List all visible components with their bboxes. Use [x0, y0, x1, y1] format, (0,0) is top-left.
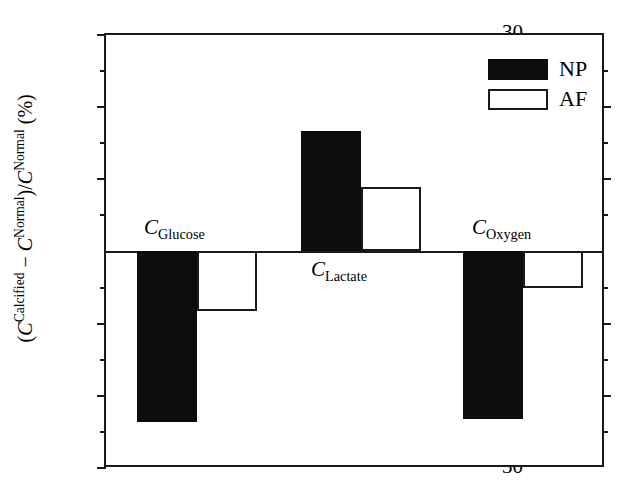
group-label-oxygen: COxygen — [472, 215, 531, 243]
legend-label-np: NP — [559, 58, 587, 80]
bar-chart-figure: (CCalcified − CNormal)/CNormal (%) 30 20… — [0, 0, 635, 499]
y-tick-major-neg20 — [97, 395, 106, 397]
bar-np-glucose[interactable] — [137, 251, 197, 422]
y-tick-minor-right-neg25 — [602, 431, 608, 433]
plot-area: CGlucose CLactate COxygen NP AF — [104, 33, 604, 467]
y-tick-minor-neg25 — [100, 431, 106, 433]
group-label-glucose-base: C — [144, 215, 158, 239]
y-tick-minor-25 — [100, 70, 106, 72]
y-tick-major-right-20 — [602, 106, 611, 108]
y-tick-minor-right-neg5 — [602, 287, 608, 289]
y-tick-major-10 — [97, 178, 106, 180]
y-tick-minor-15 — [100, 142, 106, 144]
group-label-lactate-sub: Lactate — [325, 268, 367, 284]
y-tick-major-right-neg10 — [602, 323, 611, 325]
y-tick-minor-neg15 — [100, 359, 106, 361]
bar-af-glucose[interactable] — [197, 251, 257, 311]
chart-legend: NP AF — [488, 54, 587, 114]
bar-np-lactate[interactable] — [301, 131, 361, 251]
group-label-glucose: CGlucose — [144, 215, 205, 243]
group-label-lactate-base: C — [311, 257, 325, 281]
group-label-oxygen-sub: Oxygen — [486, 226, 531, 242]
y-tick-major-neg30 — [97, 467, 106, 469]
legend-entry-np[interactable]: NP — [488, 54, 587, 84]
group-label-oxygen-base: C — [472, 215, 486, 239]
y-tick-major-neg10 — [97, 323, 106, 325]
y-axis-title-text: (CCalcified − CNormal)/CNormal (%) — [13, 94, 35, 342]
bar-af-oxygen[interactable] — [523, 251, 583, 288]
y-tick-major-right-neg20 — [602, 395, 611, 397]
group-label-lactate: CLactate — [311, 257, 367, 285]
bar-np-oxygen[interactable] — [463, 251, 523, 419]
y-tick-minor-neg5 — [100, 287, 106, 289]
y-tick-major-30 — [97, 34, 106, 36]
y-tick-minor-right-neg15 — [602, 359, 608, 361]
y-tick-minor-5 — [100, 214, 106, 216]
legend-entry-af[interactable]: AF — [488, 84, 587, 114]
y-tick-major-20 — [97, 106, 106, 108]
legend-swatch-np-icon — [488, 59, 548, 80]
y-tick-minor-right-15 — [602, 142, 608, 144]
group-label-glucose-sub: Glucose — [158, 226, 205, 242]
y-tick-minor-right-5 — [602, 214, 608, 216]
bar-af-lactate[interactable] — [361, 187, 421, 251]
y-tick-minor-right-25 — [602, 70, 608, 72]
y-tick-major-right-10 — [602, 178, 611, 180]
legend-swatch-af-icon — [488, 89, 548, 110]
legend-label-af: AF — [559, 88, 587, 110]
y-axis-title: (CCalcified − CNormal)/CNormal (%) — [12, 0, 37, 499]
